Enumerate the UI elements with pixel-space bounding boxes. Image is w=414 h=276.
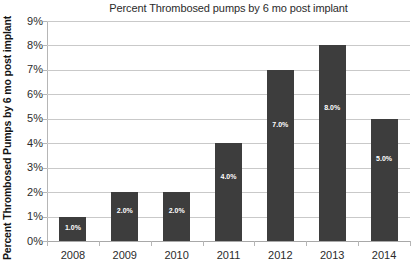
y-axis-tick-mark bbox=[43, 143, 47, 144]
bar-value-label-2014: 5.0% bbox=[371, 155, 398, 163]
x-axis-tick-mark bbox=[203, 241, 204, 246]
y-axis-tick-mark bbox=[43, 94, 47, 95]
y-axis-tick-mark bbox=[43, 217, 47, 218]
x-axis-tick-mark bbox=[410, 241, 411, 246]
bar-value-label-2008: 1.0% bbox=[59, 224, 86, 232]
bar-2013 bbox=[319, 45, 346, 241]
bar-value-label-2010: 2.0% bbox=[163, 207, 190, 215]
bar-chart: Percent Thrombosed pumps by 6 mo post im… bbox=[0, 0, 414, 276]
y-axis-tick-label: 3% bbox=[5, 162, 43, 173]
gridline bbox=[47, 119, 410, 120]
y-axis-tick-mark bbox=[43, 21, 47, 22]
x-axis-tick-mark bbox=[99, 241, 100, 246]
y-axis-tick-mark bbox=[43, 70, 47, 71]
bar-2009 bbox=[111, 192, 138, 241]
bar-2012 bbox=[267, 70, 294, 241]
bar-2010 bbox=[163, 192, 190, 241]
y-axis-tick-label: 6% bbox=[5, 89, 43, 100]
chart-title: Percent Thrombosed pumps by 6 mo post im… bbox=[47, 2, 410, 14]
bar-value-label-2011: 4.0% bbox=[215, 173, 242, 181]
y-axis-tick-mark bbox=[43, 168, 47, 169]
x-axis-tick-label-2008: 2008 bbox=[47, 249, 99, 262]
x-axis-tick-label-2011: 2011 bbox=[203, 249, 255, 262]
gridline bbox=[47, 94, 410, 95]
bar-value-label-2009: 2.0% bbox=[111, 207, 138, 215]
y-axis-tick-mark bbox=[43, 119, 47, 120]
bar-value-label-2012: 7.0% bbox=[267, 121, 294, 129]
x-axis-tick-label-2009: 2009 bbox=[99, 249, 151, 262]
y-axis-line bbox=[47, 21, 48, 242]
gridline bbox=[47, 70, 410, 71]
gridline bbox=[47, 45, 410, 46]
x-axis-tick-mark bbox=[306, 241, 307, 246]
y-axis-tick-label: 1% bbox=[5, 211, 43, 222]
x-axis-tick-mark bbox=[151, 241, 152, 246]
y-axis-tick-label: 4% bbox=[5, 138, 43, 149]
x-axis-tick-mark bbox=[254, 241, 255, 246]
x-axis-tick-label-2010: 2010 bbox=[151, 249, 203, 262]
bar-value-label-2013: 8.0% bbox=[319, 104, 346, 112]
x-axis-tick-mark bbox=[358, 241, 359, 246]
y-axis-tick-labels: 0%1%2%3%4%5%6%7%8%9% bbox=[0, 0, 43, 276]
y-axis-tick-mark bbox=[43, 192, 47, 193]
bar-2014 bbox=[371, 119, 398, 241]
y-axis-tick-label: 2% bbox=[5, 187, 43, 198]
y-axis-tick-label: 7% bbox=[5, 64, 43, 75]
gridline bbox=[47, 21, 410, 22]
y-axis-tick-label: 8% bbox=[5, 40, 43, 51]
y-axis-tick-mark bbox=[43, 45, 47, 46]
x-axis-tick-label-2013: 2013 bbox=[306, 249, 358, 262]
y-axis-tick-label: 0% bbox=[5, 236, 43, 247]
x-axis-tick-label-2014: 2014 bbox=[358, 249, 410, 262]
y-axis-tick-label: 9% bbox=[5, 16, 43, 27]
bar-2011 bbox=[215, 143, 242, 241]
x-axis-tick-mark bbox=[47, 241, 48, 246]
gridline bbox=[47, 241, 410, 242]
y-axis-tick-label: 5% bbox=[5, 113, 43, 124]
x-axis-tick-label-2012: 2012 bbox=[254, 249, 306, 262]
